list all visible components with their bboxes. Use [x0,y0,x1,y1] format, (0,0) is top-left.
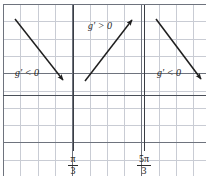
label-left-negative: g′ < 0 [15,67,39,78]
fraction-pi-over-3: π 3 [68,154,77,176]
label-right-negative: g′ < 0 [157,67,181,78]
tick-pi-over-3: π 3 [59,154,87,176]
fraction-denominator: 3 [68,166,77,177]
fraction-denominator: 3 [137,166,151,177]
fraction-5pi-over-3: 5π 3 [137,154,151,176]
label-middle-positive: g′ > 0 [88,20,112,31]
label-right-negative-text: g′ < 0 [157,67,181,78]
tick-5pi-over-3: 5π 3 [130,154,158,176]
fraction-numerator: π [68,154,77,166]
label-middle-positive-text: g′ > 0 [88,20,112,31]
label-left-negative-text: g′ < 0 [15,67,39,78]
fraction-numerator: 5π [137,154,151,166]
sign-diagram-figure: g′ < 0 g′ > 0 g′ < 0 π 3 5π 3 [0,0,214,190]
